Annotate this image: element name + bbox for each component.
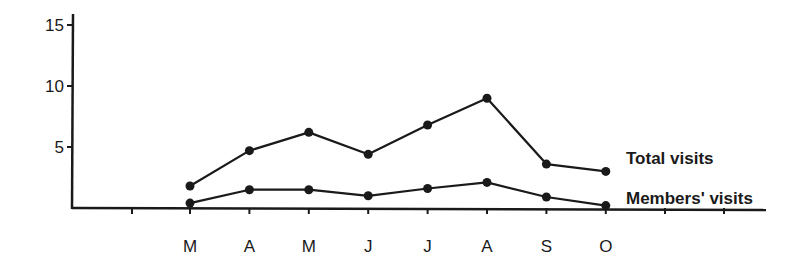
data-point <box>364 191 373 200</box>
y-tick-label: 5 <box>55 138 64 157</box>
data-point <box>364 150 373 159</box>
x-tick-label: J <box>423 237 432 256</box>
series-line <box>190 98 606 186</box>
data-point <box>483 94 492 103</box>
series-members-visits <box>186 178 611 210</box>
series-lines <box>186 94 611 210</box>
x-ticks: MAMJJASO <box>132 208 724 256</box>
legend-total-visits: Total visits <box>626 149 714 168</box>
data-point <box>601 201 610 210</box>
x-tick-label: M <box>183 237 197 256</box>
data-point <box>542 160 551 169</box>
data-point <box>601 167 610 176</box>
y-tick-label: 10 <box>45 77 64 96</box>
legend: Total visits Members' visits <box>626 149 753 208</box>
axes <box>72 14 766 210</box>
x-tick-label: A <box>244 237 256 256</box>
legend-members-visits: Members' visits <box>626 189 753 208</box>
data-point <box>423 121 432 130</box>
y-ticks: 51015 <box>45 16 73 157</box>
data-point <box>245 146 254 155</box>
y-tick-label: 15 <box>45 16 64 35</box>
data-point <box>186 182 195 191</box>
data-point <box>304 185 313 194</box>
data-point <box>542 193 551 202</box>
x-tick-label: A <box>481 237 493 256</box>
x-tick-label: J <box>364 237 373 256</box>
x-tick-label: M <box>302 237 316 256</box>
data-point <box>304 128 313 137</box>
data-point <box>186 199 195 208</box>
x-tick-label: S <box>541 237 552 256</box>
data-point <box>423 184 432 193</box>
x-tick-label: O <box>599 237 612 256</box>
data-point <box>245 185 254 194</box>
line-chart: 51015 MAMJJASO Total visits Members' vis… <box>0 0 807 271</box>
series-total-visits <box>186 94 611 191</box>
y-axis <box>72 14 73 209</box>
x-axis <box>72 208 766 210</box>
data-point <box>483 178 492 187</box>
